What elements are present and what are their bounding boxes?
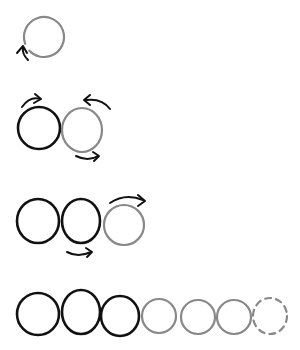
dashed-circle	[253, 298, 287, 334]
light-circle	[181, 300, 215, 334]
row-1	[17, 11, 70, 62]
dark-circle	[17, 293, 59, 335]
right-arrow-top-icon	[22, 94, 41, 107]
row-4	[17, 290, 287, 336]
dark-circle	[62, 199, 100, 243]
right-arrow-bottom-icon	[76, 152, 99, 161]
row-2	[18, 94, 110, 161]
left-arrow-top-icon	[84, 95, 110, 109]
light-circle	[142, 299, 176, 333]
light-circle	[104, 205, 144, 245]
dark-circle	[18, 107, 60, 149]
right-arrow-bottom-icon	[67, 248, 92, 257]
dark-circle	[62, 290, 100, 334]
circle-sequence-diagram	[0, 0, 300, 350]
row-3	[17, 195, 145, 257]
light-circle	[62, 108, 102, 152]
light-circle	[217, 300, 251, 334]
dark-circle	[17, 199, 59, 243]
dark-circle	[101, 296, 139, 336]
counterclockwise-arrow-icon	[17, 46, 28, 60]
light-circle	[18, 11, 69, 62]
